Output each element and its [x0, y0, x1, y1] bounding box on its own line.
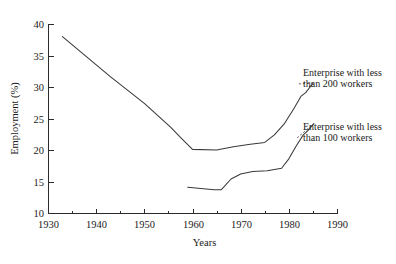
employment-line-chart: 10152025303540 1930194019501960197019801… [0, 0, 396, 264]
y-tick-label: 30 [34, 82, 45, 93]
x-tick-label: 1930 [38, 219, 59, 230]
x-tick-label: 1990 [327, 219, 348, 230]
y-tick-label: 20 [34, 145, 45, 156]
x-tick-label: 1960 [183, 219, 204, 230]
x-tick-label: 1940 [86, 219, 107, 230]
y-tick-label: 40 [34, 19, 45, 30]
x-tick-label: 1950 [134, 219, 155, 230]
annotation-label-line2: than 100 workers [303, 132, 373, 143]
y-tick-label: 15 [34, 177, 45, 188]
annotation-label-line2: than 200 workers [303, 78, 373, 89]
y-tick-label: 35 [34, 51, 45, 62]
y-axis-title: Employment (%) [9, 82, 21, 155]
x-tick-label: 1970 [231, 219, 252, 230]
x-axis-title: Years [193, 237, 216, 248]
annotation-label-line1: Enterprise with less [303, 67, 382, 78]
chart-figure: 10152025303540 1930194019501960197019801… [0, 0, 396, 264]
annotation-label-line1: Enterprise with less [303, 121, 382, 132]
y-tick-label: 25 [34, 114, 45, 125]
y-tick-label: 10 [34, 208, 45, 219]
x-tick-label: 1980 [279, 219, 300, 230]
